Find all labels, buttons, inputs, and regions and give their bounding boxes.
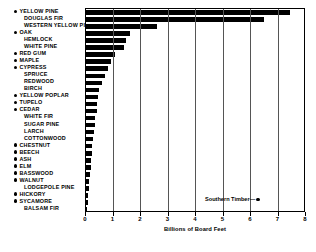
bar — [85, 59, 111, 64]
category-label: BALSAM FIR — [24, 205, 59, 212]
legend-label: Southern Timber — [205, 196, 250, 202]
bar — [85, 52, 115, 57]
category-row: LODGEPOLE PINE — [0, 184, 85, 191]
category-label: HEMLOCK — [24, 36, 53, 43]
category-row: DOUGLAS FIR — [0, 15, 85, 22]
bar — [85, 81, 102, 86]
category-label: BEECH — [20, 149, 40, 156]
category-row: RED GUM — [0, 50, 85, 57]
category-row: BEECH — [0, 149, 85, 156]
bar — [85, 38, 126, 43]
category-label: YELLOW POPLAR — [20, 92, 69, 99]
bar — [85, 137, 93, 142]
category-label: LODGEPOLE PINE — [24, 184, 74, 191]
category-label: RED GUM — [20, 50, 47, 57]
category-row: CHESTNUT — [0, 142, 85, 149]
category-label: CHESTNUT — [20, 142, 51, 149]
y-axis-line — [85, 8, 86, 212]
category-label: WESTERN YELLOW PINE — [24, 22, 93, 29]
category-row: SPRUCE — [0, 71, 85, 78]
category-row: CYPRESS — [0, 64, 85, 71]
southern-timber-dot-icon — [14, 52, 17, 55]
category-row: SUGAR PINE — [0, 121, 85, 128]
category-row: REDWOOD — [0, 78, 85, 85]
gridline — [223, 9, 224, 211]
southern-timber-dot-icon — [14, 143, 17, 146]
bar — [85, 123, 95, 128]
category-label: WHITE PINE — [24, 43, 57, 50]
x-tick-label: 1 — [111, 216, 114, 222]
category-label: WHITE FIR — [24, 113, 53, 120]
bar — [85, 95, 98, 100]
southern-timber-dot-icon — [256, 198, 259, 201]
southern-timber-dot-icon — [14, 101, 17, 104]
category-label: SUGAR PINE — [24, 121, 59, 128]
category-label: COTTONWOOD — [24, 135, 66, 142]
x-tick-label: 2 — [138, 216, 141, 222]
category-label: YELLOW PINE — [20, 8, 59, 15]
plot-area — [85, 8, 305, 212]
southern-timber-dot-icon — [14, 164, 17, 167]
category-row: BALSAM FIR — [0, 205, 85, 212]
category-label: SYCAMORE — [20, 198, 53, 205]
southern-timber-dot-icon — [14, 31, 17, 34]
category-row: ELM — [0, 163, 85, 170]
category-label-column: YELLOW PINEDOUGLAS FIRWESTERN YELLOW PIN… — [0, 8, 85, 212]
category-label: MAPLE — [20, 57, 40, 64]
category-row: WESTERN YELLOW PINE — [0, 22, 85, 29]
category-label: TUPELO — [20, 99, 43, 106]
category-row: TUPELO — [0, 99, 85, 106]
bar — [85, 24, 157, 29]
southern-timber-dot-icon — [14, 59, 17, 62]
x-tick-label: 0 — [83, 216, 86, 222]
category-label: LARCH — [24, 128, 44, 135]
category-row: YELLOW POPLAR — [0, 92, 85, 99]
x-axis-title: Billions of Board Feet — [85, 226, 305, 232]
southern-timber-dot-icon — [14, 150, 17, 153]
bar — [85, 10, 290, 15]
gridline — [250, 9, 251, 211]
legend: Southern Timber— — [205, 196, 260, 202]
gridline — [195, 9, 196, 211]
category-row: OAK — [0, 29, 85, 36]
category-row: MAPLE — [0, 57, 85, 64]
x-tick-label: 4 — [193, 216, 196, 222]
category-label: BASSWOOD — [20, 170, 54, 177]
category-label: CEDAR — [20, 106, 40, 113]
category-label: DOUGLAS FIR — [24, 15, 63, 22]
southern-timber-dot-icon — [14, 199, 17, 202]
bar — [85, 144, 92, 149]
x-tick-label: 3 — [166, 216, 169, 222]
bar — [85, 31, 130, 36]
southern-timber-dot-icon — [14, 94, 17, 97]
category-row: HICKORY — [0, 191, 85, 198]
bar — [85, 102, 97, 107]
bar — [85, 66, 108, 71]
bar — [85, 88, 99, 93]
southern-timber-dot-icon — [14, 108, 17, 111]
x-axis: 012345678 — [85, 212, 305, 252]
gridline — [278, 9, 279, 211]
bar — [85, 109, 97, 114]
southern-timber-dot-icon — [14, 192, 17, 195]
x-tick-label: 7 — [276, 216, 279, 222]
gridline — [113, 9, 114, 211]
category-row: BASSWOOD — [0, 170, 85, 177]
bar — [85, 151, 92, 156]
gridline — [140, 9, 141, 211]
bar — [85, 130, 94, 135]
category-row: WHITE FIR — [0, 113, 85, 120]
bar — [85, 74, 105, 79]
southern-timber-dot-icon — [14, 178, 17, 181]
category-label: WALNUT — [20, 177, 44, 184]
category-row: CEDAR — [0, 106, 85, 113]
category-row: WALNUT — [0, 177, 85, 184]
bar — [85, 45, 124, 50]
horizontal-bar-chart: YELLOW PINEDOUGLAS FIRWESTERN YELLOW PIN… — [0, 0, 316, 252]
category-row: YELLOW PINE — [0, 8, 85, 15]
x-tick-label: 5 — [221, 216, 224, 222]
x-tick-label: 6 — [248, 216, 251, 222]
x-tick-label: 8 — [303, 216, 306, 222]
category-row: HEMLOCK — [0, 36, 85, 43]
gridline — [168, 9, 169, 211]
